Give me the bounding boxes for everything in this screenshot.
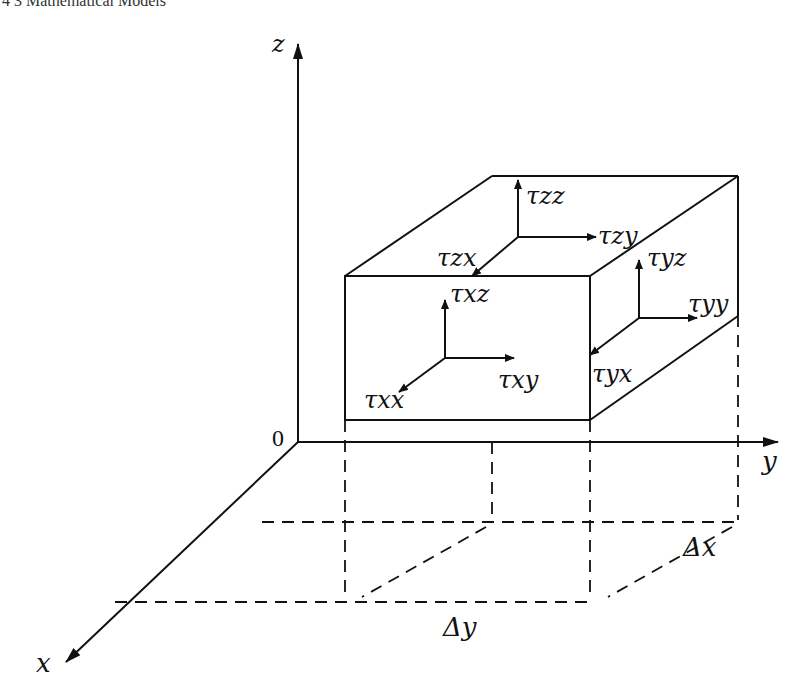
delta-y-label: Δy xyxy=(442,612,477,642)
z-axis-label: z xyxy=(271,30,285,58)
coordinate-axes xyxy=(66,44,778,662)
tau-zy-label: τzy xyxy=(598,222,638,250)
tau-xz-label: τxz xyxy=(450,280,490,308)
stress-element-diagram: z y x 0 τzz τzy τzx τyz τyy τyx τxz τxy … xyxy=(0,0,811,679)
tau-xx-label: τxx xyxy=(364,386,405,414)
volume-element xyxy=(345,176,738,420)
tau-zx-label: τzx xyxy=(437,244,477,272)
x-axis-label: x xyxy=(36,648,51,678)
stress-arrows xyxy=(399,180,697,392)
delta-x-label: Δx xyxy=(682,532,717,562)
tau-xy-label: τxy xyxy=(498,366,539,394)
projection-lines xyxy=(115,315,738,602)
origin-label: 0 xyxy=(272,425,284,451)
tau-yx-label: τyx xyxy=(592,360,633,388)
tau-zz-label: τzz xyxy=(526,182,565,210)
tau-yy-label: τyy xyxy=(688,290,729,318)
y-axis-label: y xyxy=(761,446,777,476)
tau-yz-label: τyz xyxy=(647,244,687,272)
